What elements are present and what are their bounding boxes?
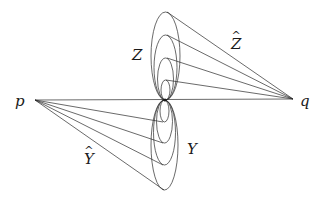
y-hat-line-4 [35,100,164,190]
y-ellipses [151,100,178,190]
label-q: q [300,94,310,109]
z-ellipses [151,12,180,100]
z-hat-line-1 [167,12,293,99]
diagram-canvas [0,0,325,198]
y-hat-cone [35,100,164,190]
label-y: Y [187,142,197,157]
z-ellipse-4 [161,80,170,100]
label-p: p [15,94,25,109]
y-ellipse-4 [160,100,169,122]
z-ellipse-1 [151,12,180,100]
y-hat-line-2 [35,100,163,143]
label-y-hat: ^ Y [84,152,94,167]
y-ellipse-2 [154,100,176,165]
hat-accent: ^ [84,145,94,156]
center-junction [163,98,166,101]
y-hat-line-1 [35,100,163,122]
hat-accent: ^ [231,30,241,41]
z-ellipse-3 [158,58,174,100]
z-hat-cone [166,12,293,99]
z-hat-line-3 [167,58,293,99]
label-z: Z [132,48,142,63]
label-z-hat: ^ Z [231,37,241,52]
z-ellipse-2 [154,35,177,100]
y-ellipse-1 [151,100,178,190]
y-hat-line-3 [35,100,163,165]
